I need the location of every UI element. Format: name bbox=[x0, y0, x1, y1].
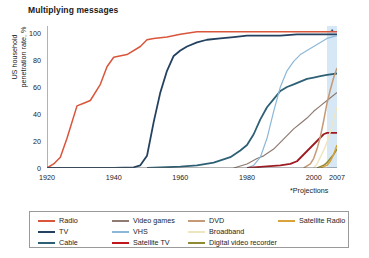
legend-label: Cable bbox=[59, 238, 78, 248]
plot-area: * bbox=[47, 26, 337, 168]
legend-item-tv[interactable]: TV bbox=[38, 227, 68, 237]
legend-swatch-icon bbox=[188, 220, 205, 222]
legend-item-satellite-radio[interactable]: Satellite Radio bbox=[278, 216, 345, 226]
legend-item-radio[interactable]: Radio bbox=[38, 216, 78, 226]
x-tick-label: 1960 bbox=[160, 173, 200, 182]
legend-swatch-icon bbox=[38, 231, 55, 233]
legend-item-cable[interactable]: Cable bbox=[38, 238, 78, 248]
x-tick-label: 1980 bbox=[227, 173, 267, 182]
legend-swatch-icon bbox=[38, 242, 55, 244]
legend-swatch-icon bbox=[188, 242, 205, 244]
series-line-cable bbox=[147, 74, 337, 169]
legend-item-video-games[interactable]: Video games bbox=[112, 216, 175, 226]
projections-footnote: *Projections bbox=[290, 186, 328, 195]
y-tick-label: 40 bbox=[19, 110, 41, 119]
legend-label: Satellite TV bbox=[133, 238, 170, 248]
legend-label: Video games bbox=[133, 216, 175, 226]
legend-item-broadband[interactable]: Broadband bbox=[188, 227, 244, 237]
legend-item-vhs[interactable]: VHS bbox=[112, 227, 148, 237]
legend-label: Digital video recorder bbox=[209, 238, 277, 248]
legend-item-digital-video-recorder[interactable]: Digital video recorder bbox=[188, 238, 277, 248]
legend-label: Satellite Radio bbox=[299, 216, 345, 226]
y-tick-label: 20 bbox=[19, 137, 41, 146]
legend-swatch-icon bbox=[112, 242, 129, 244]
legend-swatch-icon bbox=[38, 220, 55, 222]
legend-label: DVD bbox=[209, 216, 224, 226]
x-tick-label: 2007 bbox=[317, 173, 357, 182]
y-tick-label: 80 bbox=[19, 56, 41, 65]
plot-svg: * bbox=[47, 26, 337, 168]
chart-title: Multiplying messages bbox=[28, 5, 118, 15]
legend-swatch-icon bbox=[278, 220, 295, 222]
x-tick-label: 1920 bbox=[27, 173, 67, 182]
series-line-vhs bbox=[247, 36, 337, 168]
legend-label: Radio bbox=[59, 216, 78, 226]
legend-swatch-icon bbox=[112, 231, 129, 233]
chart-legend: RadioTVCableVideo gamesVHSSatellite TVDV… bbox=[29, 211, 349, 248]
legend-item-satellite-tv[interactable]: Satellite TV bbox=[112, 238, 170, 248]
legend-label: VHS bbox=[133, 227, 148, 237]
y-tick-label: 60 bbox=[19, 83, 41, 92]
y-tick-label: 100 bbox=[19, 29, 41, 38]
chart-figure: Multiplying messages US household penetr… bbox=[0, 0, 369, 258]
x-tick-label: 1940 bbox=[94, 173, 134, 182]
legend-swatch-icon bbox=[112, 220, 129, 222]
legend-label: TV bbox=[59, 227, 68, 237]
y-axis-label-line1: US household bbox=[10, 0, 19, 125]
legend-label: Broadband bbox=[209, 227, 244, 237]
legend-item-dvd[interactable]: DVD bbox=[188, 216, 224, 226]
series-line-radio bbox=[47, 32, 337, 168]
legend-swatch-icon bbox=[188, 231, 205, 233]
y-tick-label: 0 bbox=[19, 164, 41, 173]
